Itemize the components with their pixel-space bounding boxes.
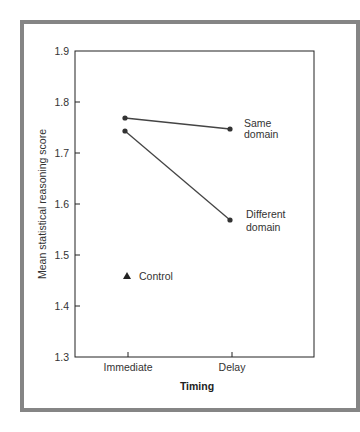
series-label-control: Control (139, 270, 173, 282)
triangle-marker-icon (123, 272, 131, 279)
x-tick-label-delay: Delay (219, 361, 247, 373)
y-tick-label: 1.3 (54, 351, 69, 363)
x-axis (128, 352, 232, 357)
series-label-same-2: domain (244, 128, 279, 140)
y-axis-title: Mean statistical reasoning score (36, 129, 48, 279)
data-point (122, 128, 127, 133)
y-axis (75, 102, 80, 306)
x-axis-title: Timing (180, 380, 214, 392)
y-tick-labels: 1.9 1.8 1.7 1.6 1.5 1.4 1.3 (54, 45, 69, 363)
x-tick-label-immediate: Immediate (103, 361, 152, 373)
series-different-domain (122, 128, 232, 222)
y-tick-label: 1.8 (54, 96, 69, 108)
y-tick-label: 1.9 (54, 45, 69, 57)
y-tick-label: 1.5 (54, 249, 69, 261)
plot-area (75, 51, 314, 357)
y-tick-label: 1.7 (54, 147, 69, 159)
y-tick-label: 1.4 (54, 300, 69, 312)
series-label-diff-1: Different (246, 208, 286, 220)
data-point (122, 115, 127, 120)
series-label-diff-2: domain (246, 221, 281, 233)
y-tick-label: 1.6 (54, 198, 69, 210)
data-point (227, 217, 232, 222)
data-point (227, 126, 232, 131)
series-same-domain (122, 115, 232, 131)
